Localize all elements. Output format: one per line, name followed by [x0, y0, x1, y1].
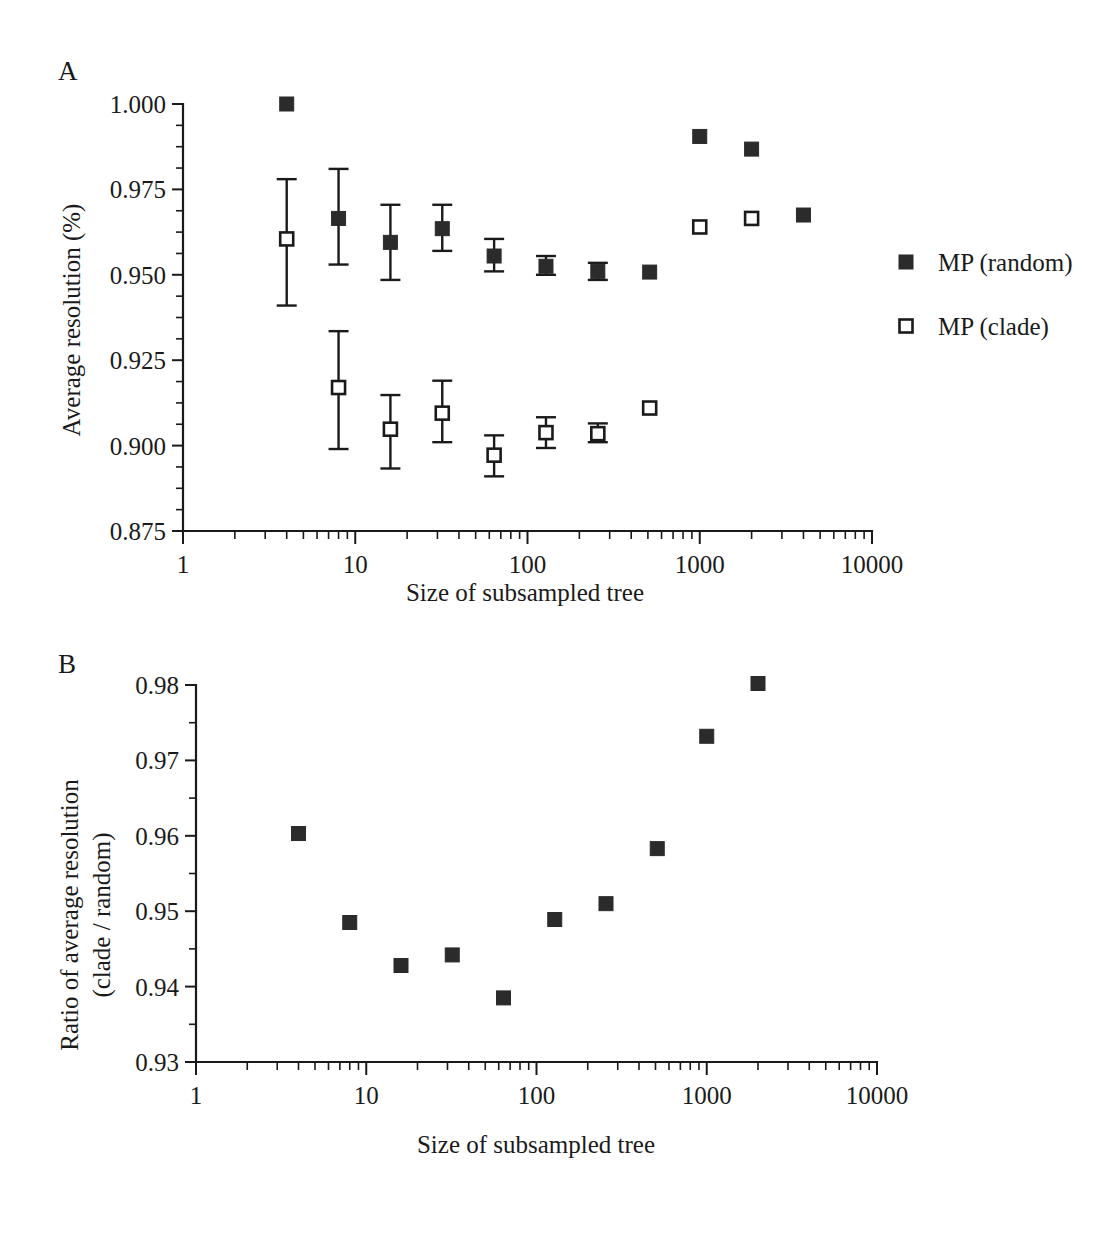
b-xtick-label: 1 [190, 1082, 203, 1109]
panel-a-y-ticklabels: 0.8750.9000.9250.9500.9751.000 [110, 91, 166, 545]
legend-label-clade: MP (clade) [938, 313, 1049, 341]
panel-b: B 0.930.940.950.960.970.98 1101001000100… [0, 625, 1093, 1185]
b-point-filled [292, 827, 306, 841]
b-point-filled [650, 842, 664, 856]
panel-a-yaxis-title: Average resolution (%) [58, 204, 86, 437]
a-xtick-label: 100 [509, 551, 547, 578]
panel-b-axes [196, 685, 877, 1062]
a-point-open [280, 232, 293, 245]
legend-open-square-icon [900, 320, 913, 333]
panel-a: A 0.8750.9000.9250.9500.9751.000 1101001… [0, 0, 1093, 625]
a-xtick-label: 10 [343, 551, 368, 578]
b-point-filled [394, 958, 408, 972]
a-point-filled [693, 129, 707, 143]
a-point-filled [643, 265, 657, 279]
a-point-filled [280, 97, 294, 111]
panel-a-canvas: A 0.8750.9000.9250.9500.9751.000 1101001… [0, 0, 1093, 625]
b-point-filled [599, 897, 613, 911]
b-point-filled [445, 948, 459, 962]
b-ytick-label: 0.95 [135, 898, 179, 925]
panel-b-x-ticklabels: 110100100010000 [190, 1082, 909, 1109]
panel-b-yaxis-title-line1: Ratio of average resolution [56, 779, 83, 1051]
panel-b-x-ticks [196, 1062, 877, 1075]
b-xtick-label: 10 [354, 1082, 379, 1109]
b-ytick-label: 0.98 [135, 672, 179, 699]
a-xtick-label: 1 [177, 551, 190, 578]
a-point-open [384, 423, 397, 436]
a-point-open [488, 449, 501, 462]
b-xtick-label: 100 [518, 1082, 556, 1109]
b-point-filled [343, 916, 357, 930]
panel-b-xaxis-title: Size of subsampled tree [417, 1131, 655, 1158]
b-ytick-label: 0.97 [135, 747, 179, 774]
b-point-filled [751, 676, 765, 690]
a-xtick-label: 1000 [675, 551, 725, 578]
panel-a-data-points [277, 97, 811, 476]
panel-b-yaxis-title-line2: (clade / random) [88, 832, 116, 997]
a-point-filled [796, 208, 810, 222]
figure-root: A 0.8750.9000.9250.9500.9751.000 1101001… [0, 0, 1093, 1234]
a-ytick-label: 0.975 [110, 176, 166, 203]
b-ytick-label: 0.93 [135, 1049, 179, 1076]
legend-filled-square-icon [899, 255, 913, 269]
a-point-filled [591, 264, 605, 278]
panel-a-letter: A [58, 56, 78, 86]
a-ytick-label: 0.950 [110, 262, 166, 289]
panel-b-letter: B [58, 649, 76, 679]
a-point-open [436, 407, 449, 420]
a-ytick-label: 0.925 [110, 347, 166, 374]
a-ytick-label: 0.875 [110, 518, 166, 545]
panel-b-y-ticks [185, 685, 196, 1062]
panel-a-legend: MP (random)MP (clade) [899, 249, 1072, 341]
b-ytick-label: 0.94 [135, 974, 179, 1001]
a-axis-frame [183, 104, 872, 531]
a-xtick-label: 10000 [841, 551, 904, 578]
a-point-open [591, 427, 604, 440]
panel-b-canvas: B 0.930.940.950.960.970.98 1101001000100… [0, 625, 1093, 1185]
a-point-filled [332, 211, 346, 225]
panel-a-axes [183, 104, 872, 531]
a-point-filled [435, 222, 449, 236]
a-point-filled [539, 259, 553, 273]
panel-a-x-ticklabels: 110100100010000 [177, 551, 904, 578]
a-point-open [745, 212, 758, 225]
panel-a-y-ticks [172, 104, 183, 531]
a-point-open [332, 381, 345, 394]
a-ytick-label: 0.900 [110, 433, 166, 460]
b-xtick-label: 1000 [682, 1082, 732, 1109]
a-ytick-label: 1.000 [110, 91, 166, 118]
b-ytick-label: 0.96 [135, 823, 179, 850]
a-point-filled [745, 142, 759, 156]
b-point-filled [700, 729, 714, 743]
a-point-open [693, 220, 706, 233]
panel-a-xaxis-title: Size of subsampled tree [406, 579, 644, 606]
a-point-filled [487, 249, 501, 263]
b-point-filled [548, 912, 562, 926]
legend-label-random: MP (random) [938, 249, 1072, 277]
b-point-filled [497, 991, 511, 1005]
a-point-open [539, 426, 552, 439]
b-axis-frame [196, 685, 877, 1062]
panel-a-x-ticks [183, 531, 872, 544]
a-point-open [643, 402, 656, 415]
panel-b-data-points [292, 676, 765, 1004]
panel-b-y-ticklabels: 0.930.940.950.960.970.98 [135, 672, 179, 1076]
a-point-filled [383, 235, 397, 249]
b-xtick-label: 10000 [846, 1082, 909, 1109]
